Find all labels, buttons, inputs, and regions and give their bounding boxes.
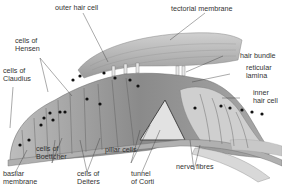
label-inner-hair-cell: inner hair cell (253, 89, 278, 105)
label-cells-of-boettcher: cells of Boettcher (36, 145, 67, 161)
label-nerve-fibres: nerve fibres (176, 163, 214, 171)
label-basilar-membrane: basilar membrane (3, 170, 37, 186)
label-cells-of-claudius: cells of Claudius (3, 67, 31, 83)
label-cells-of-hensen: cells of Hensen (15, 37, 40, 53)
label-tectorial-membrane: tectorial membrane (171, 5, 233, 13)
label-hair-bundle: hair bundle (240, 52, 276, 60)
label-reticular-lamina: reticular lamina (246, 64, 272, 80)
label-pillar-cells: pillar cells (105, 146, 137, 154)
label-outer-hair-cell: outer hair cell (55, 4, 98, 12)
label-tunnel-of-corti: tunnel of Corti (131, 170, 154, 186)
label-cells-of-deiters: cells of Deiters (77, 170, 100, 186)
organ-of-corti-diagram: outer hair cell tectorial membrane cells… (0, 0, 282, 189)
